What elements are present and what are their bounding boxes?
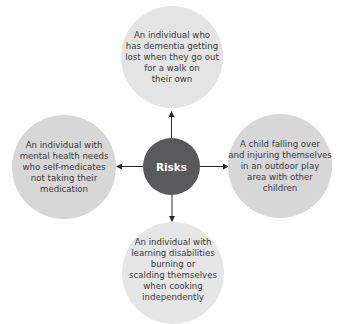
risk-node-label: An individual with learning disabilities… <box>129 237 217 303</box>
risk-node-label: An individual with mental health needs w… <box>20 140 109 195</box>
center-node-risks: Risks <box>143 138 200 195</box>
risk-node-label: An individual who has dementia getting l… <box>125 30 219 85</box>
risk-node-mental-health: An individual with mental health needs w… <box>12 115 116 219</box>
risk-node-learning-disabilities: An individual with learning disabilities… <box>122 222 224 324</box>
risk-node-dementia: An individual who has dementia getting l… <box>121 6 223 108</box>
center-node-label: Risks <box>156 161 187 173</box>
risk-node-child-falling: A child falling over and injuring themse… <box>228 114 332 218</box>
risk-node-label: A child falling over and injuring themse… <box>228 139 332 194</box>
